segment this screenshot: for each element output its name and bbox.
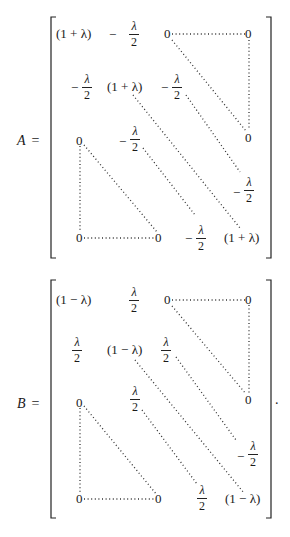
b-frac-r1c2: λ2 (129, 286, 139, 314)
a-entry-r5c1: 0 (76, 231, 83, 244)
b-frac-r2c3: λ2 (161, 336, 171, 364)
frac-denominator: 2 (74, 352, 80, 364)
b-left-bracket (51, 280, 56, 518)
a-minus-r2c1: − (71, 80, 78, 96)
matrix-b-label: B= (17, 396, 39, 412)
frac-numerator: λ (197, 224, 204, 236)
frac-denominator: 2 (132, 141, 138, 153)
frac-denominator: 2 (174, 89, 180, 101)
b-entry-r1c3: 0 (164, 293, 171, 306)
a-minus-r4c5: − (233, 185, 240, 201)
frac-denominator: 2 (246, 192, 252, 204)
frac-numerator: λ (131, 385, 138, 397)
equals-sign: = (32, 133, 40, 148)
frac-denominator: 2 (250, 456, 256, 468)
b-frac-r4c5: λ2 (248, 440, 258, 468)
a-entry-r1c5: 0 (245, 27, 252, 40)
matrix-a-label: A= (17, 133, 39, 149)
a-frac-r2c3: λ2 (172, 73, 182, 101)
a-entry-r3c1: 0 (76, 134, 83, 147)
frac-numerator: λ (249, 440, 256, 452)
frac-denominator: 2 (131, 36, 137, 48)
frac-numerator: λ (130, 286, 137, 298)
b-entry-r5c5: (1 − λ) (225, 492, 260, 505)
a-right-bracket (266, 17, 271, 258)
a-entry-r5c3: 0 (155, 231, 162, 244)
frac-denominator: 2 (199, 500, 205, 512)
b-entry-r1c5: 0 (245, 293, 252, 306)
frac-denominator: 2 (131, 302, 137, 314)
frac-numerator: λ (198, 484, 205, 496)
frac-denominator: 2 (198, 240, 204, 252)
b-entry-r3c1: 0 (76, 396, 83, 409)
a-frac-r3c2: λ2 (130, 125, 140, 153)
a-entry-r1c1: (1 + λ) (56, 27, 91, 40)
frac-numerator: λ (245, 176, 252, 188)
a-minus-r3c2: − (119, 134, 126, 150)
frac-numerator: λ (162, 336, 169, 348)
frac-denominator: 2 (163, 352, 169, 364)
frac-numerator: λ (83, 73, 90, 85)
a-minus-r2c3: − (161, 80, 168, 96)
a-frac-r5c4: λ2 (196, 224, 206, 252)
b-frac-r2c1: λ2 (72, 336, 82, 364)
b-right-bracket (266, 280, 271, 518)
a-minus-r1c2: − (109, 27, 116, 43)
a-frac-r4c5: λ2 (244, 176, 254, 204)
a-frac-r2c1: λ2 (82, 73, 92, 101)
a-entry-r3c5: 0 (245, 131, 252, 144)
a-dotted-lines (80, 34, 249, 238)
b-minus-r4c5: − (237, 449, 244, 465)
frac-numerator: λ (131, 125, 138, 137)
a-entry-r1c3: 0 (164, 27, 171, 40)
matrix-lines (0, 0, 290, 537)
matrix-b-name: B (17, 396, 26, 411)
frac-numerator: λ (173, 73, 180, 85)
b-dotted-lines (80, 300, 249, 499)
a-entry-r2c2: (1 + λ) (107, 80, 142, 93)
frac-denominator: 2 (84, 89, 90, 101)
equals-sign: = (32, 396, 40, 411)
a-frac-r1c2: λ2 (129, 20, 139, 48)
b-entry-r2c2: (1 − λ) (107, 343, 142, 356)
frac-numerator: λ (130, 20, 137, 32)
b-frac-r3c2: λ2 (130, 385, 140, 413)
b-entry-r1c1: (1 − λ) (56, 293, 91, 306)
a-left-bracket (51, 17, 56, 258)
matrix-a-name: A (17, 133, 26, 148)
a-minus-r5c4: − (185, 231, 192, 247)
b-entry-r3c5: 0 (245, 393, 252, 406)
b-frac-r5c4: λ2 (197, 484, 207, 512)
b-entry-r5c1: 0 (76, 492, 83, 505)
frac-numerator: λ (73, 336, 80, 348)
b-entry-r5c3: 0 (155, 492, 162, 505)
trailing-period: . (275, 392, 279, 408)
frac-denominator: 2 (132, 401, 138, 413)
a-entry-r5c5: (1 + λ) (224, 231, 259, 244)
